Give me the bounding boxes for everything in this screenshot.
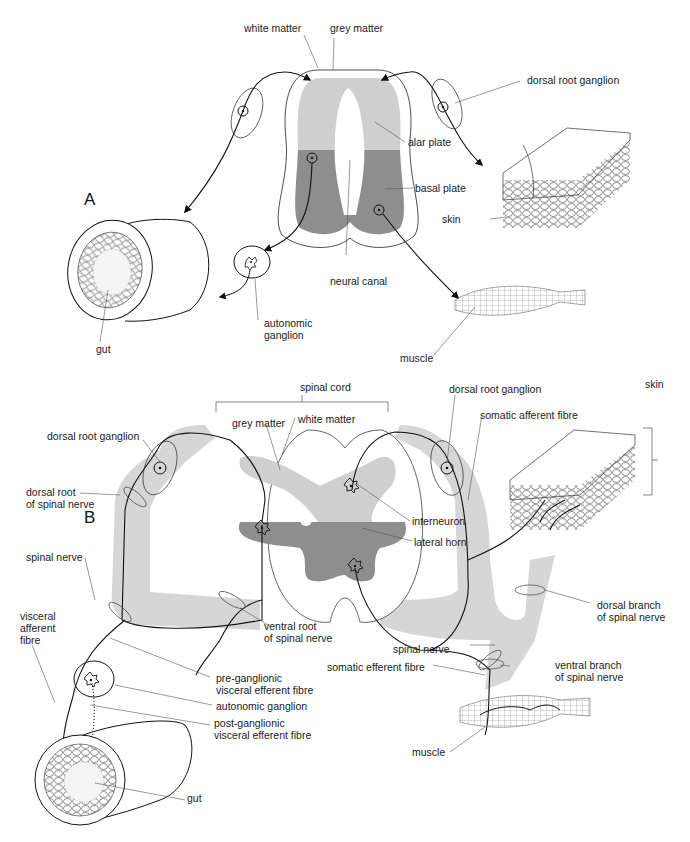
label-muscle-b: muscle xyxy=(412,746,445,758)
label-post-ganglionic: post-ganglionic visceral efferent fibre xyxy=(214,717,311,741)
label-dorsal-branch: dorsal branch of spinal nerve xyxy=(597,599,665,623)
label-dorsal-root-ganglion-a: dorsal root ganglion xyxy=(527,74,619,86)
panel-letter-a: A xyxy=(84,190,95,210)
skin-b xyxy=(510,430,635,530)
label-muscle-a: muscle xyxy=(400,352,433,364)
label-spinal-nerve-right: spinal nerve xyxy=(393,643,450,655)
label-spinal-cord: spinal cord xyxy=(300,381,351,393)
label-ventral-branch: ventral branch of spinal nerve xyxy=(555,659,623,683)
central-canal xyxy=(300,514,312,526)
label-ventral-root: ventral root of spinal nerve xyxy=(264,620,332,644)
label-grey-matter-b: grey matter xyxy=(232,417,285,429)
label-alar-plate: alar plate xyxy=(408,136,451,148)
label-pre-ganglionic: pre-ganglionic visceral efferent fibre xyxy=(216,672,313,696)
panel-letter-b: B xyxy=(84,508,95,528)
autonomic-ganglion-b xyxy=(74,661,114,697)
label-grey-matter-a: grey matter xyxy=(330,22,383,34)
label-white-matter-b: white matter xyxy=(298,413,355,425)
label-basal-plate: basal plate xyxy=(415,182,466,194)
label-dorsal-root-ganglion-b-right: dorsal root ganglion xyxy=(449,383,541,395)
label-somatic-efferent-fibre: somatic efferent fibre xyxy=(327,661,425,673)
label-neural-canal: neural canal xyxy=(330,275,387,287)
spinal-nerve-band-left xyxy=(112,425,260,630)
label-dorsal-root: dorsal root of spinal nerve xyxy=(26,486,94,510)
gut-b xyxy=(35,721,192,825)
label-visceral-afferent-fibre: visceral afferent fibre xyxy=(20,610,56,646)
label-gut-b: gut xyxy=(187,792,202,804)
spinal-cord-bracket xyxy=(216,395,388,412)
label-dorsal-root-ganglion-b-left: dorsal root ganglion xyxy=(47,430,139,442)
label-autonomic-ganglion-a: autonomic ganglion xyxy=(264,317,312,341)
label-spinal-nerve-left: spinal nerve xyxy=(26,551,83,563)
label-lateral-horn: lateral horn xyxy=(414,536,467,548)
label-skin-b: skin xyxy=(645,378,664,390)
skin-a xyxy=(503,128,630,228)
label-interneuron: interneuron xyxy=(412,515,465,527)
muscle-b xyxy=(460,696,590,728)
label-somatic-afferent-fibre: somatic afferent fibre xyxy=(480,409,578,421)
label-white-matter-a: white matter xyxy=(244,22,301,34)
dorsal-root-ganglion-left-a xyxy=(225,84,269,142)
muscle-a xyxy=(455,286,585,315)
label-autonomic-ganglion-b: autonomic ganglion xyxy=(216,700,307,712)
gut-a xyxy=(60,213,209,326)
label-gut-a: gut xyxy=(96,343,111,355)
panel-b xyxy=(32,395,658,825)
label-skin-a: skin xyxy=(442,213,461,225)
